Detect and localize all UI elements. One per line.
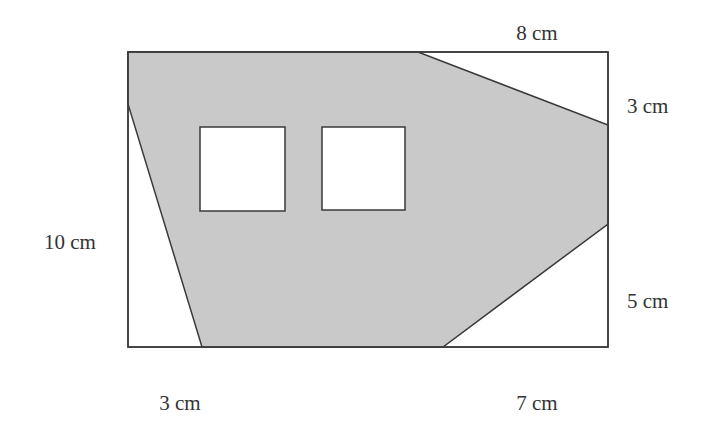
label-left-10cm: 10 cm <box>44 230 96 254</box>
shaded-area-diagram: 8 cm 3 cm 5 cm 10 cm 3 cm 7 cm <box>0 0 728 434</box>
label-top-8cm: 8 cm <box>516 21 557 45</box>
label-bottom-left-3cm: 3 cm <box>159 391 200 415</box>
label-bottom-right-7cm: 7 cm <box>516 391 557 415</box>
square-hole-right <box>322 127 405 210</box>
label-right-upper-3cm: 3 cm <box>627 94 668 118</box>
label-right-lower-5cm: 5 cm <box>627 289 668 313</box>
square-hole-left <box>200 127 285 211</box>
